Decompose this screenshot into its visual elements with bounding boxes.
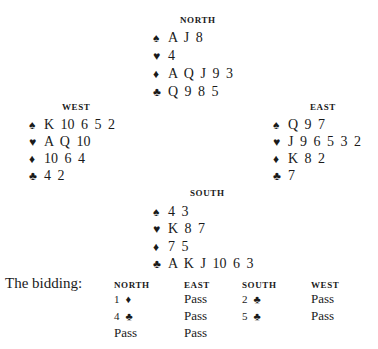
- bid-south-1: 2♣: [242, 291, 261, 307]
- diamond-icon: ♦: [153, 66, 168, 83]
- heart-icon: ♥: [153, 221, 168, 238]
- diamond-icon: ♦: [29, 151, 44, 168]
- club-icon: ♣: [153, 84, 168, 101]
- heart-icon: ♥: [29, 134, 44, 151]
- diamond-icon: ♦: [126, 293, 132, 305]
- bid-west-1: Pass: [311, 291, 334, 307]
- bid-west-2: Pass: [311, 308, 334, 324]
- north-spades: A J 8: [168, 29, 203, 46]
- south-label: SOUTH: [190, 188, 225, 198]
- bid-east-1: Pass: [184, 291, 207, 307]
- west-label: WEST: [62, 102, 90, 112]
- club-icon: ♣: [126, 310, 133, 322]
- bid-header-west: WEST: [311, 280, 339, 290]
- east-diamonds: K 8 2: [288, 150, 325, 167]
- club-icon: ♣: [273, 168, 288, 185]
- south-spades: 4 3: [168, 203, 189, 220]
- diamond-icon: ♦: [273, 151, 288, 168]
- north-hearts: 4: [168, 47, 175, 64]
- west-diamonds: 10 6 4: [44, 150, 85, 167]
- spade-icon: ♠: [29, 117, 44, 134]
- north-label: NORTH: [180, 15, 216, 25]
- south-clubs: A K J 10 6 3: [168, 255, 253, 272]
- east-hearts: J 9 6 5 3 2: [288, 133, 361, 150]
- east-spades: Q 9 7: [288, 116, 325, 133]
- east-label: EAST: [310, 102, 336, 112]
- spade-icon: ♠: [273, 117, 288, 134]
- diamond-icon: ♦: [153, 239, 168, 256]
- bid-north-1: 1♦: [114, 291, 131, 307]
- spade-icon: ♠: [153, 30, 168, 47]
- west-hearts: A Q 10: [44, 133, 90, 150]
- bid-north-2: 4♣: [114, 308, 133, 324]
- club-icon: ♣: [254, 293, 261, 305]
- bid-north-3: Pass: [114, 325, 137, 341]
- south-diamonds: 7 5: [168, 238, 189, 255]
- club-icon: ♣: [29, 168, 44, 185]
- club-icon: ♣: [153, 256, 168, 273]
- bid-south-2: 5♣: [242, 308, 261, 324]
- east-clubs: 7: [288, 167, 295, 184]
- heart-icon: ♥: [273, 134, 288, 151]
- club-icon: ♣: [254, 310, 261, 322]
- north-diamonds: A Q J 9 3: [168, 65, 233, 82]
- bid-east-3: Pass: [184, 325, 207, 341]
- north-clubs: Q 9 8 5: [168, 83, 219, 100]
- bid-header-south: SOUTH: [242, 280, 277, 290]
- west-spades: K 10 6 5 2: [44, 116, 115, 133]
- heart-icon: ♥: [153, 48, 168, 65]
- bid-east-2: Pass: [184, 308, 207, 324]
- south-hearts: K 8 7: [168, 220, 205, 237]
- bidding-title: The bidding:: [5, 275, 82, 292]
- bid-header-north: NORTH: [114, 280, 150, 290]
- west-clubs: 4 2: [44, 167, 65, 184]
- spade-icon: ♠: [153, 204, 168, 221]
- bid-header-east: EAST: [184, 280, 210, 290]
